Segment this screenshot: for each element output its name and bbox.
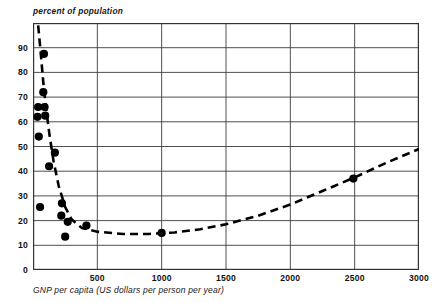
data-point [36,203,44,211]
x-axis-title: GNP per capita (US dollars per person pe… [33,285,224,295]
y-tick-label: 30 [2,191,28,201]
y-tick-label: 40 [2,166,28,176]
y-tick-label: 50 [2,142,28,152]
data-point [51,149,59,157]
y-tick-label: 90 [2,43,28,53]
data-point [158,229,166,237]
data-point-group [33,50,357,241]
chart-figure: percent of population 010203040506070809… [0,0,443,303]
x-tick-label: 3000 [396,273,442,283]
y-tick-label: 0 [2,265,28,275]
data-point [349,175,357,183]
x-tick-label: 1000 [139,273,185,283]
data-point [58,199,66,207]
data-point [40,103,48,111]
data-point [35,133,43,141]
data-point [39,88,47,96]
plot-area [33,23,419,270]
data-point [61,233,69,241]
data-point [41,112,49,120]
data-point [40,50,48,58]
y-tick-label: 70 [2,92,28,102]
data-point [82,221,90,229]
data-point [64,218,72,226]
y-tick-label: 10 [2,240,28,250]
y-tick-label: 80 [2,67,28,77]
y-tick-label: 60 [2,117,28,127]
x-tick-label: 2500 [332,273,378,283]
x-tick-label: 500 [74,273,120,283]
x-tick-label: 1500 [203,273,249,283]
trend-curve [38,25,419,233]
plot-canvas [33,23,419,270]
y-tick-label: 20 [2,216,28,226]
y-axis-title: percent of population [33,6,123,16]
data-point [45,162,53,170]
grid-lines [33,23,419,270]
data-point [57,212,65,220]
x-tick-label: 2000 [267,273,313,283]
data-point [33,113,41,121]
